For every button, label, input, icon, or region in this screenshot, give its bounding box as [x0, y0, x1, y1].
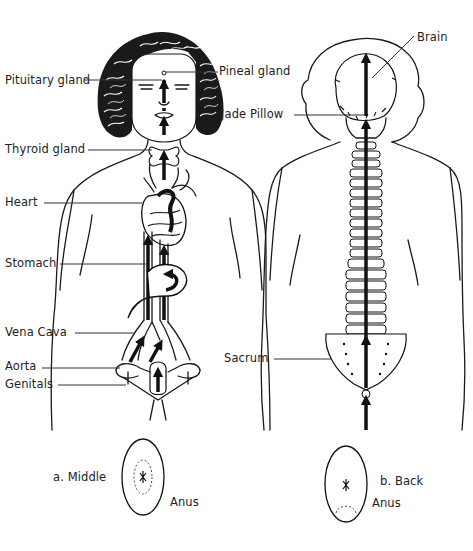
label-sacrum: Sacrum: [224, 353, 269, 365]
front-left-silhouette: [51, 140, 148, 430]
caption-a-middle: a. Middle: [53, 472, 106, 484]
label-anus-b: Anus: [372, 498, 401, 510]
heart-shape: [142, 194, 186, 246]
front-right-silhouette: [180, 140, 270, 430]
label-brain: Brain: [417, 32, 448, 44]
pituitary-point: [162, 80, 166, 84]
mouth: [155, 113, 173, 118]
stomach-shape: [128, 265, 187, 319]
label-pineal-gland: Pineal gland: [219, 66, 290, 78]
pineal-point: [162, 71, 166, 75]
label-jade-pillow: Jade Pillow: [221, 109, 283, 121]
back-left-silhouette: [261, 142, 340, 430]
label-thyroid-gland: Thyroid gland: [5, 144, 85, 156]
label-pituitary-gland: Pituitary gland: [5, 75, 90, 87]
label-vena-cava: Vena Cava: [5, 327, 67, 339]
back-right-silhouette: [392, 142, 465, 430]
label-aorta: Aorta: [5, 361, 37, 373]
label-heart: Heart: [5, 197, 38, 209]
inset-a-middle: [122, 439, 164, 515]
coccyx: [362, 390, 370, 398]
front-figure: [51, 32, 270, 430]
label-anus-a: Anus: [170, 497, 199, 509]
diagram-figure: Pituitary gland Pineal gland Thyroid gla…: [0, 0, 473, 551]
back-figure: [261, 39, 465, 431]
right-pelvic-arrow: [150, 344, 160, 362]
inset-b-back: [325, 446, 367, 522]
caption-b-back: b. Back: [380, 476, 423, 488]
label-genitals: Genitals: [5, 379, 53, 391]
label-stomach: Stomach: [5, 258, 56, 270]
